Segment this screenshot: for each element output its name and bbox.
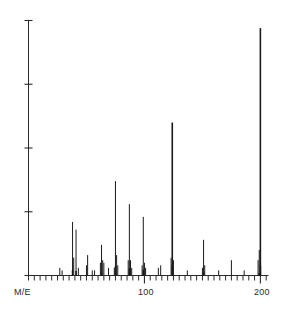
x-axis-ticks (29, 276, 267, 284)
x-axis-tick-label-100: 100 (138, 287, 154, 297)
x-axis-label-me: M/E (14, 287, 31, 297)
spectrum-plot-area: M/E 100 200 (0, 0, 286, 313)
peak-sticks (60, 28, 261, 275)
x-axis-tick-label-200: 200 (254, 287, 270, 297)
mass-spectrum-chart: M/E 100 200 (0, 0, 286, 313)
